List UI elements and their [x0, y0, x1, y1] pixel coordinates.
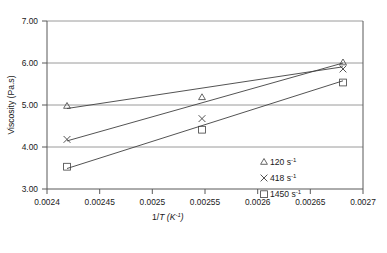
legend-sup-418: -1 — [291, 173, 297, 179]
y-tick-label-5: 5.00 — [22, 100, 39, 110]
legend-value-418: 418 — [270, 173, 285, 183]
legend-value-120: 120 — [270, 157, 285, 167]
y-tick-label-6: 6.00 — [22, 58, 39, 68]
chart-background — [0, 0, 387, 253]
y-axis-title: Viscosity (Pa.s) — [6, 75, 16, 134]
x-tick-label-0: 0.0024 — [34, 197, 60, 207]
x-tick-label-1: 0.00245 — [85, 197, 116, 207]
x-tick-label-5: 0.00265 — [295, 197, 326, 207]
legend-sup-120: -1 — [291, 157, 297, 163]
x-tick-label-6: 0.0027 — [350, 197, 376, 207]
chart-canvas: 7.00 6.00 5.00 4.00 3.00 0.0024 0.00245 … — [0, 0, 387, 253]
x-tick-labels: 0.0024 0.00245 0.0025 0.00255 0.0026 0.0… — [34, 197, 376, 207]
viscosity-chart-figure: 7.00 6.00 5.00 4.00 3.00 0.0024 0.00245 … — [0, 0, 387, 253]
legend-sup-1450: -1 — [296, 189, 302, 195]
x-tick-label-3: 0.00255 — [190, 197, 221, 207]
y-tick-label-4: 4.00 — [22, 142, 39, 152]
legend-value-1450: 1450 — [270, 189, 289, 199]
x-axis-title-unit-close: ) — [180, 212, 184, 222]
y-tick-label-7: 7.00 — [22, 16, 39, 26]
y-tick-label-3: 3.00 — [22, 184, 39, 194]
x-tick-label-4: 0.0026 — [245, 197, 271, 207]
x-tick-label-2: 0.0025 — [139, 197, 165, 207]
